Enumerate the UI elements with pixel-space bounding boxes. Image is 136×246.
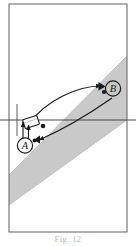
marker-b: B [105, 81, 120, 96]
sensor-dot-1 [41, 124, 46, 129]
marker-a: A [17, 138, 32, 153]
technical-figure: A B [0, 0, 136, 246]
marker-b-label: B [110, 83, 117, 94]
figure-caption-area: Fig. 12 [0, 236, 136, 246]
figure-container: A B Fig. 12 [0, 0, 136, 246]
figure-caption: Fig. 12 [0, 236, 136, 244]
marker-a-label: A [21, 140, 29, 151]
